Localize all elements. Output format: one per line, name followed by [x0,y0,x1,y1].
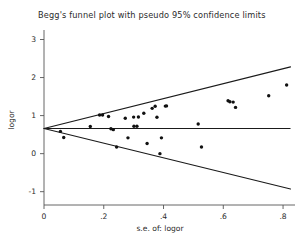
data-point [158,152,161,155]
x-tick-label: .2 [100,212,107,221]
data-point [160,136,163,139]
chart-title: Begg's funnel plot with pseudo 95% confi… [38,10,266,20]
data-point [62,136,65,139]
data-point [89,125,92,128]
data-point [98,113,101,116]
data-point [228,100,231,103]
data-point [59,130,62,133]
data-point [234,106,237,109]
y-tick-label: 1 [31,111,36,120]
data-point [155,116,158,119]
data-point [135,125,138,128]
x-tick-label: .8 [279,212,286,221]
y-axis-label: logor [7,109,16,129]
data-point [137,115,140,118]
plot-canvas: Begg's funnel plot with pseudo 95% confi… [0,0,304,243]
data-point [132,125,135,128]
data-point [145,142,148,145]
data-point [285,83,288,86]
data-point [165,104,168,107]
figure-background [0,0,304,243]
x-tick-label: .4 [160,212,167,221]
data-point [142,112,145,115]
data-point [231,100,234,103]
y-tick-label: 2 [31,73,36,82]
y-tick-label: -1 [28,187,36,196]
data-point [200,145,203,148]
data-point [132,115,135,118]
y-tick-label: 3 [31,35,36,44]
y-tick-label: 0 [31,149,36,158]
data-point [107,115,110,118]
x-axis-label: s.e. of: logor [136,224,184,233]
data-point [153,105,156,108]
data-point [196,122,199,125]
data-point [124,117,127,120]
data-point [115,145,118,148]
data-point [267,94,270,97]
data-point [150,107,153,110]
x-tick-label: 0 [42,212,47,221]
data-point [126,136,129,139]
data-point [101,113,104,116]
data-point [112,128,115,131]
x-tick-label: .6 [220,212,227,221]
funnel-plot-figure: Begg's funnel plot with pseudo 95% confi… [0,0,304,243]
